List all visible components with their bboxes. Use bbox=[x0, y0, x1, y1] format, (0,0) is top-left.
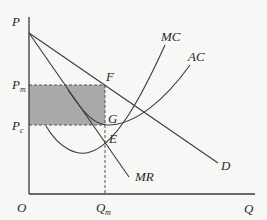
pm-subscript: m bbox=[20, 85, 26, 94]
y-axis-label: P bbox=[11, 14, 20, 29]
ac-label: AC bbox=[187, 49, 205, 64]
point-f-label: F bbox=[105, 69, 115, 84]
pc-label: P bbox=[11, 118, 20, 133]
qm-subscript: m bbox=[105, 208, 111, 217]
point-e-label: E bbox=[108, 131, 117, 146]
pc-subscript: c bbox=[20, 126, 24, 135]
pm-label: P bbox=[11, 77, 20, 92]
d-label: D bbox=[220, 158, 231, 173]
monopoly-diagram: P Q O P m P c Q m MC AC D MR F G E bbox=[0, 0, 267, 220]
point-g-label: G bbox=[108, 111, 118, 126]
x-axis-label: Q bbox=[244, 201, 254, 216]
origin-label: O bbox=[17, 200, 27, 215]
profit-area bbox=[29, 85, 105, 125]
mr-label: MR bbox=[134, 169, 154, 184]
mc-label: MC bbox=[160, 29, 181, 44]
diagram-canvas: P Q O P m P c Q m MC AC D MR F G E bbox=[0, 0, 267, 220]
